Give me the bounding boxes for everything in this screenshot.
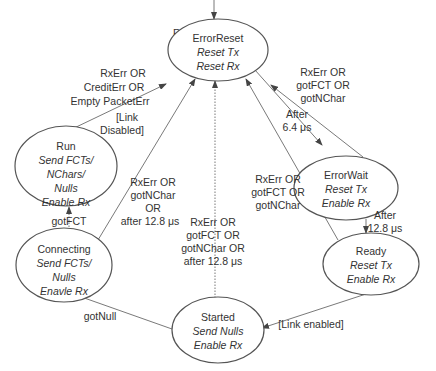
svg-text:gotFCT OR: gotFCT OR (186, 229, 240, 241)
state-name: ErrorWait (324, 169, 368, 181)
state-action: Enable Rx (322, 197, 371, 209)
svg-text:RxErr OR: RxErr OR (300, 66, 346, 78)
svg-text:gotNChar: gotNChar (131, 189, 176, 201)
svg-text:Disabled]: Disabled] (100, 124, 144, 136)
svg-text:gotNChar: gotNChar (301, 92, 346, 104)
state-action: Enable Rx (347, 273, 396, 285)
state-run: Run Send FCTs/ NChars/ Nulls Enable Rx (15, 126, 117, 208)
state-action: Enable Rx (42, 196, 91, 208)
svg-text:gotNull: gotNull (84, 310, 117, 322)
state-machine-diagram: RESET ErrorReset Reset Tx Reset Rx Err (0, 0, 436, 371)
label-error-wait-to-error-reset: RxErr OR gotFCT OR gotNChar (296, 66, 350, 104)
state-action: Send FCTs/ (38, 154, 94, 166)
state-action: Reset Tx (325, 183, 368, 195)
state-action: Nulls (52, 271, 76, 283)
svg-text:[Link: [Link (116, 111, 139, 123)
state-action: Reset Rx (196, 60, 240, 72)
svg-text:12.8 μs: 12.8 μs (368, 222, 403, 234)
state-action: Enable Rx (194, 339, 243, 351)
svg-text:CreditErr OR: CreditErr OR (84, 81, 145, 93)
svg-text:After: After (286, 108, 309, 120)
label-connecting-to-run: gotFCT (51, 215, 87, 227)
state-action: Reset Tx (197, 46, 240, 58)
svg-text:gotFCT OR: gotFCT OR (251, 186, 305, 198)
state-action: Enavle Rx (40, 285, 89, 297)
svg-text:after 12.8 μs: after 12.8 μs (121, 215, 180, 227)
state-started: Started Send Nulls Enable Rx (172, 297, 264, 363)
state-name: Connecting (37, 243, 90, 255)
svg-text:Empty PacketErr: Empty PacketErr (71, 95, 150, 107)
label-run-to-error-reset: RxErr OR CreditErr OR Empty PacketErr [L… (71, 67, 150, 136)
svg-text:gotNChar: gotNChar (256, 199, 301, 211)
state-connecting: Connecting Send FCTs/ Nulls Enavle Rx (16, 228, 112, 302)
label-ready-to-started: [Link enabled] (278, 318, 343, 330)
state-ready: Ready Reset Tx Enable Rx (323, 233, 419, 295)
svg-text:after 12.8 μs: after 12.8 μs (184, 255, 243, 267)
state-action: NChars/ (47, 168, 87, 180)
state-name: Run (56, 140, 75, 152)
label-started-to-connecting: gotNull (84, 310, 117, 322)
svg-text:RxErr OR: RxErr OR (130, 176, 176, 188)
state-name: Ready (356, 245, 387, 257)
svg-text:gotFCT OR: gotFCT OR (296, 79, 350, 91)
state-name: Started (201, 311, 235, 323)
svg-text:RxErr OR: RxErr OR (190, 216, 236, 228)
svg-text:RxErr OR: RxErr OR (100, 67, 146, 79)
label-error-reset-to-error-wait: After 6.4 μs (283, 108, 312, 133)
svg-text:RxErr OR: RxErr OR (255, 173, 301, 185)
state-action: Send FCTs/ (36, 257, 92, 269)
state-action: Reset Tx (350, 259, 393, 271)
svg-text:6.4 μs: 6.4 μs (283, 121, 312, 133)
label-started-to-error-reset: RxErr OR gotFCT OR gotNChar OR after 12.… (181, 216, 245, 267)
svg-text:After: After (374, 209, 397, 221)
svg-text:OR: OR (145, 202, 161, 214)
label-connecting-to-error-reset: RxErr OR gotNChar OR after 12.8 μs (121, 176, 180, 227)
state-action: Nulls (54, 182, 78, 194)
state-name: ErrorReset (193, 32, 244, 44)
state-error-reset: ErrorReset Reset Tx Reset Rx (168, 19, 268, 81)
svg-text:gotFCT: gotFCT (51, 215, 87, 227)
svg-text:[Link enabled]: [Link enabled] (278, 318, 343, 330)
state-action: Send Nulls (193, 325, 245, 337)
label-ready-to-error-reset: RxErr OR gotFCT OR gotNChar (251, 173, 305, 211)
svg-text:gotNChar OR: gotNChar OR (181, 242, 245, 254)
